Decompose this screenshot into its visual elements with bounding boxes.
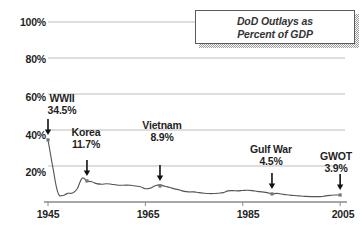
annotation-label: WWII <box>36 92 88 104</box>
chart-title-line-1: DoD Outlays as <box>196 15 354 28</box>
chart-title-box: DoD Outlays as Percent of GDP <box>195 10 355 44</box>
annotation-gulf-war: Gulf War 4.5% <box>240 143 302 167</box>
annotation-arrow-head <box>269 183 275 189</box>
annotation-wwii: WWII 34.5% <box>36 92 88 116</box>
annotation-value: 34.5% <box>36 104 88 116</box>
data-point-marker <box>270 192 273 195</box>
annotation-gwot: GWOT 3.9% <box>311 150 361 174</box>
data-point-marker <box>158 184 161 187</box>
annotation-label: Korea <box>60 126 112 138</box>
annotation-vietnam: Vietnam 8.9% <box>132 119 192 143</box>
annotation-label: Vietnam <box>132 119 192 131</box>
annotation-arrow-head <box>337 184 343 190</box>
annotation-korea: Korea 11.7% <box>60 126 112 150</box>
annotation-label: Gulf War <box>240 143 302 155</box>
data-point-marker <box>85 179 88 182</box>
annotation-value: 3.9% <box>311 162 361 174</box>
chart-title-line-2: Percent of GDP <box>196 28 354 41</box>
chart-canvas: 100% 80% 60% 40% 20% 1945 1965 1985 2005… <box>0 0 364 235</box>
annotation-arrow-head <box>84 170 90 176</box>
annotation-value: 4.5% <box>240 155 302 167</box>
data-point-marker <box>46 138 49 141</box>
annotation-arrow-head <box>45 129 51 135</box>
annotation-value: 8.9% <box>132 131 192 143</box>
chart-title: DoD Outlays as Percent of GDP <box>196 15 354 41</box>
data-point-marker <box>339 193 342 196</box>
annotation-label: GWOT <box>311 150 361 162</box>
annotation-value: 11.7% <box>60 138 112 150</box>
annotation-arrow-head <box>157 175 163 181</box>
